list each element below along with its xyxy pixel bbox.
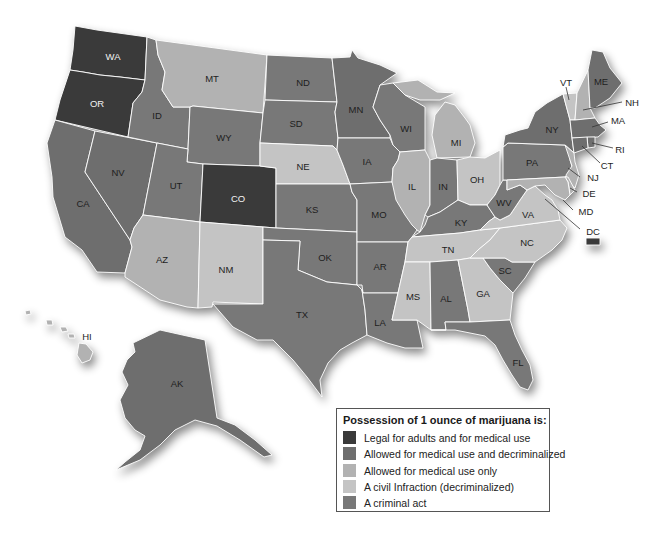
state-label-ri: RI [615, 144, 625, 155]
state-label-in: IN [438, 181, 448, 192]
state-label-ar: AR [373, 261, 386, 272]
state-dc [586, 238, 600, 245]
state-label-mo: MO [371, 209, 386, 220]
state-label-mi: MI [451, 137, 462, 148]
state-label-ut: UT [170, 180, 183, 191]
legend-title: Possession of 1 ounce of marijuana is: [343, 414, 547, 426]
legend-item-civil-infraction: A civil Infraction (decriminalized) [343, 479, 514, 494]
leader-line-md [563, 200, 573, 210]
state-label-oh: OH [470, 174, 484, 185]
state-hi [77, 343, 93, 363]
state-label-ct: CT [601, 160, 614, 171]
state-label-nc: NC [520, 237, 534, 248]
legend-item-criminal: A criminal act [343, 495, 426, 510]
state-label-ma: MA [611, 115, 626, 126]
state-label-vt: VT [560, 77, 572, 88]
legend-item-legal: Legal for adults and for medical use [343, 430, 530, 445]
state-label-ok: OK [318, 252, 332, 263]
state-label-ca: CA [76, 198, 90, 209]
state-label-nj: NJ [587, 172, 599, 183]
state-label-sc: SC [498, 265, 511, 276]
state-label-la: LA [374, 317, 386, 328]
legend-swatch [343, 480, 356, 493]
state-label-dc: DC [586, 226, 600, 237]
state-hi-part [25, 310, 31, 315]
state-label-wv: WV [496, 197, 512, 208]
state-pa [503, 143, 573, 180]
state-label-mn: MN [349, 104, 364, 115]
state-label-nh: NH [625, 97, 639, 108]
state-label-id: ID [152, 110, 162, 121]
legend-swatch [343, 496, 356, 509]
state-label-wi: WI [400, 123, 412, 134]
state-label-ks: KS [306, 204, 319, 215]
legend-swatch [343, 464, 356, 477]
states-layer [25, 26, 622, 470]
state-label-ky: KY [455, 217, 468, 228]
state-label-nv: NV [111, 167, 125, 178]
legend-label: Legal for adults and for medical use [364, 432, 530, 444]
state-label-pa: PA [526, 157, 539, 168]
state-label-tn: TN [442, 244, 455, 255]
legend: Possession of 1 ounce of marijuana is: L… [336, 408, 550, 512]
state-ak [116, 330, 272, 470]
state-label-mt: MT [205, 73, 219, 84]
state-hi-part [68, 334, 75, 338]
state-hi-part [60, 327, 68, 332]
state-label-fl: FL [512, 357, 523, 368]
legend-swatch [343, 431, 356, 444]
state-label-nm: NM [219, 264, 234, 275]
state-label-ak: AK [171, 378, 184, 389]
state-label-az: AZ [156, 254, 168, 265]
state-label-wy: WY [216, 132, 232, 143]
legend-item-medical-decriminalized: Allowed for medical use and decriminaliz… [343, 446, 565, 461]
state-label-ne: NE [296, 161, 309, 172]
state-label-co: CO [231, 193, 245, 204]
state-label-md: MD [579, 206, 594, 217]
legend-label: A civil Infraction (decriminalized) [364, 481, 514, 493]
state-label-wa: WA [106, 51, 122, 62]
state-label-al: AL [440, 293, 452, 304]
state-label-nd: ND [296, 77, 310, 88]
leader-line-ct [582, 146, 600, 163]
state-hi-part [46, 320, 53, 325]
state-label-sd: SD [289, 118, 302, 129]
state-ma [570, 118, 606, 138]
state-fl [431, 320, 533, 390]
state-label-de: DE [582, 188, 595, 199]
state-label-il: IL [408, 181, 416, 192]
legend-label: Allowed for medical use and decriminaliz… [364, 448, 565, 460]
legend-item-medical-only: Allowed for medical use only [343, 463, 497, 478]
legend-label: Allowed for medical use only [364, 465, 497, 477]
state-label-ia: IA [363, 156, 373, 167]
state-label-ny: NY [545, 124, 559, 135]
state-label-me: ME [594, 76, 608, 87]
state-label-va: VA [522, 209, 535, 220]
state-label-hi: HI [82, 331, 92, 342]
state-label-or: OR [90, 98, 104, 109]
state-label-ga: GA [476, 288, 490, 299]
state-label-tx: TX [296, 309, 309, 320]
state-ct [572, 137, 588, 153]
state-mi [432, 102, 475, 158]
legend-label: A criminal act [364, 497, 426, 509]
state-label-ms: MS [406, 291, 420, 302]
legend-swatch [343, 447, 356, 460]
